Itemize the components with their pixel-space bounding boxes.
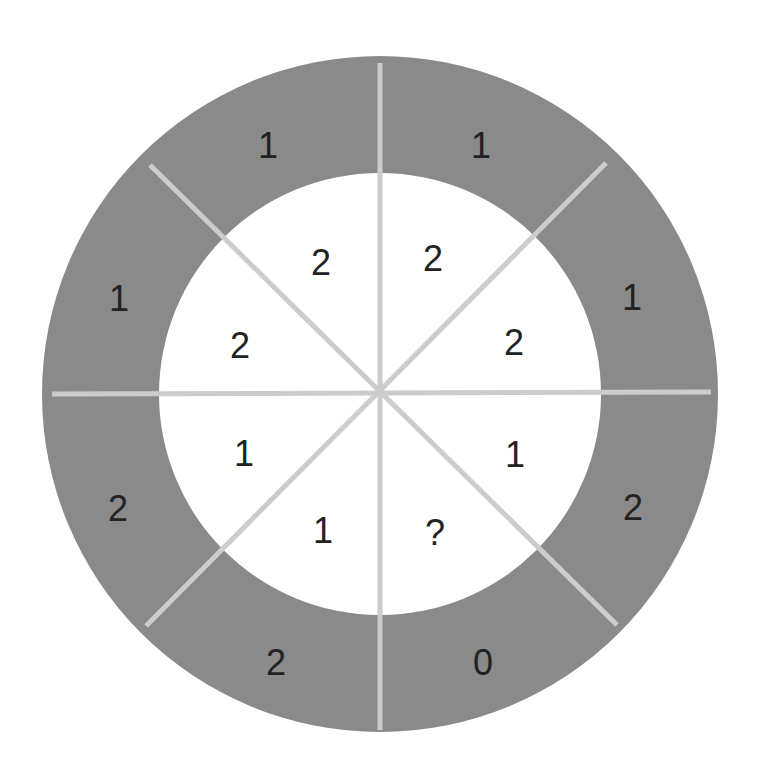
inner-label-top-right: 2 — [423, 238, 443, 279]
outer-label-left-upper: 1 — [109, 278, 129, 319]
outer-label-right-lower: 2 — [623, 487, 643, 528]
inner-label-left-lower: 1 — [234, 433, 254, 474]
outer-label-bottom-right: 0 — [473, 642, 493, 683]
inner-label-bottom-right-unknown: ? — [425, 512, 445, 553]
outer-label-bottom-left: 2 — [266, 642, 286, 683]
inner-label-top-left: 2 — [311, 242, 331, 283]
number-wheel-diagram: 1 1 1 2 0 2 2 1 2 2 2 1 ? 1 1 2 — [0, 0, 759, 778]
inner-label-bottom-left: 1 — [313, 510, 333, 551]
outer-label-top-left: 1 — [258, 125, 278, 166]
inner-label-right-lower: 1 — [505, 434, 525, 475]
outer-label-top-right: 1 — [471, 125, 491, 166]
outer-label-left-lower: 2 — [108, 488, 128, 529]
outer-label-right-upper: 1 — [622, 277, 642, 318]
inner-label-left-upper: 2 — [230, 325, 250, 366]
inner-label-right-upper: 2 — [504, 322, 524, 363]
